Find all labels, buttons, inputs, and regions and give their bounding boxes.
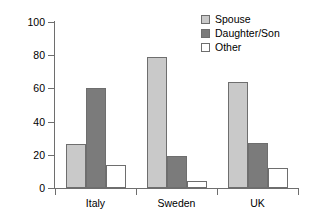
x-axis-group-label-uk: UK: [218, 198, 298, 209]
y-axis-tick: [48, 55, 54, 56]
bar-sweden-daughter-son: [167, 156, 187, 188]
y-axis-tick: [48, 155, 54, 156]
legend-swatch-spouse: [201, 15, 210, 24]
y-axis-tick: [48, 22, 54, 23]
legend-label: Daughter/Son: [215, 28, 280, 39]
x-axis-tick: [136, 189, 137, 195]
y-axis-tick-label: 100: [5, 17, 45, 28]
y-axis-tick-label: 60: [5, 83, 45, 94]
y-axis-tick-label: 40: [5, 117, 45, 128]
bar-uk-spouse: [228, 82, 248, 188]
legend-label: Other: [215, 42, 241, 53]
x-axis-tick: [217, 189, 218, 195]
x-axis-group-label-sweden: Sweden: [137, 198, 217, 209]
bar-chart: Percentage (%) 020406080100 ItalySwedenU…: [0, 0, 311, 223]
legend-swatch-daughter-son: [201, 29, 210, 38]
bar-italy-daughter-son: [86, 88, 106, 188]
legend-swatch-other: [201, 43, 210, 52]
legend-item: Daughter/Son: [201, 27, 280, 40]
y-axis-tick-label: 20: [5, 150, 45, 161]
x-axis-group-label-italy: Italy: [56, 198, 136, 209]
y-axis-tick-label: 0: [5, 183, 45, 194]
x-axis-line: [54, 188, 299, 189]
legend-item: Spouse: [201, 13, 280, 26]
chart-legend: SpouseDaughter/SonOther: [201, 13, 280, 55]
y-axis-tick: [48, 122, 54, 123]
y-axis-tick: [48, 88, 54, 89]
bar-italy-spouse: [66, 144, 86, 188]
y-axis-tick: [48, 188, 54, 189]
x-axis-tick: [298, 189, 299, 195]
legend-item: Other: [201, 41, 280, 54]
bar-uk-daughter-son: [248, 143, 268, 188]
legend-label: Spouse: [215, 14, 251, 25]
x-axis-tick: [55, 189, 56, 195]
bar-italy-other: [106, 165, 126, 188]
bar-uk-other: [268, 168, 288, 188]
bar-sweden-other: [187, 181, 207, 188]
y-axis-tick-label: 80: [5, 50, 45, 61]
bar-sweden-spouse: [147, 57, 167, 188]
